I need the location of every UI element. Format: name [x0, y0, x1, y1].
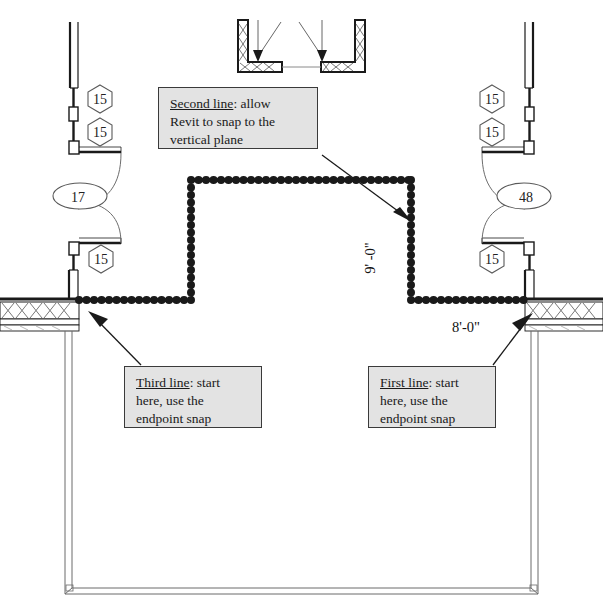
dimension-vertical: 9' -0" [362, 242, 378, 274]
callout-third-line-lead: Third line [136, 375, 190, 390]
tag-hex-left-lower-label: 15 [93, 125, 107, 140]
tag-hex-right-lower[interactable]: 15 [480, 118, 504, 146]
tag-hex-right-upper[interactable]: 15 [480, 85, 504, 113]
tag-hex-left-bottom[interactable]: 15 [89, 245, 113, 273]
callout-second-line-row3: vertical plane [170, 131, 308, 149]
callout-first-line-lead: First line [380, 375, 428, 390]
tag-hex-left-upper[interactable]: 15 [88, 85, 112, 113]
tag-oval-right[interactable]: 48 [497, 183, 551, 209]
callout-third-line-rest: : start [190, 375, 220, 390]
bottom-wall-left [0, 299, 79, 331]
tag-oval-left-label: 17 [71, 190, 85, 205]
tag-hex-right-lower-label: 15 [485, 125, 499, 140]
callout-second-line-row1: Second line: allow [170, 95, 308, 113]
callout-third-line-row3: endpoint snap [136, 410, 252, 428]
tag-hex-left-upper-label: 15 [93, 92, 107, 107]
tag-hex-right-bottom[interactable]: 15 [480, 245, 504, 273]
sketch-dotted-polyline [79, 180, 526, 300]
leader-first-line [493, 313, 533, 365]
top-center-opening [238, 20, 365, 72]
dimension-horizontal: 8'-0" [452, 319, 480, 335]
callout-first-line-row2: here, use the [380, 392, 486, 410]
tag-hex-left-bottom-label: 15 [94, 252, 108, 267]
callout-first-line[interactable]: First line: start here, use the endpoint… [368, 366, 496, 428]
tag-oval-left[interactable]: 17 [53, 183, 107, 209]
dimension-horizontal-label: 8'-0" [452, 319, 480, 335]
tag-hex-right-upper-label: 15 [485, 92, 499, 107]
callout-third-line-row1: Third line: start [136, 374, 252, 392]
bottom-wall-right [525, 299, 603, 331]
callout-second-line-lead: Second line [170, 96, 233, 111]
tag-hex-left-lower[interactable]: 15 [88, 118, 112, 146]
tag-oval-right-label: 48 [519, 190, 533, 205]
callout-second-line-row2: Revit to snap to the [170, 113, 308, 131]
dimension-vertical-label: 9' -0" [362, 242, 378, 274]
callout-second-line[interactable]: Second line: allow Revit to snap to the … [158, 87, 318, 149]
callout-third-line-row2: here, use the [136, 392, 252, 410]
callout-first-line-rest: : start [428, 375, 458, 390]
tag-hex-right-bottom-label: 15 [485, 252, 499, 267]
callout-first-line-row3: endpoint snap [380, 410, 486, 428]
leader-third-line [88, 311, 141, 365]
callout-second-line-rest: : allow [233, 96, 270, 111]
leader-second-line [322, 155, 412, 222]
callout-third-line[interactable]: Third line: start here, use the endpoint… [124, 366, 262, 428]
callout-first-line-row1: First line: start [380, 374, 486, 392]
drawing-canvas: 15 15 15 15 15 15 17 48 [0, 0, 603, 616]
